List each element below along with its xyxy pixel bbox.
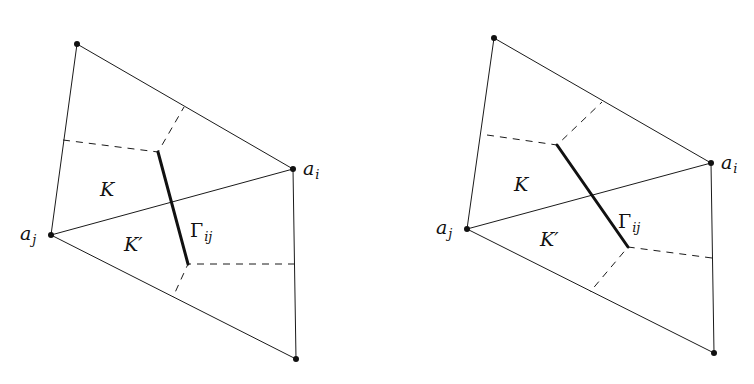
left-diagram: aiajKK′Γij: [20, 41, 320, 362]
label-a-i: ai: [303, 157, 320, 182]
right-diagram: aiajKK′Γij: [436, 35, 738, 356]
edge-top-ai: [494, 38, 711, 163]
vertex-a-j: [48, 232, 54, 238]
label-K: K: [513, 173, 530, 195]
edge-top-aj: [467, 38, 494, 229]
edge-aj-bottom: [467, 229, 714, 353]
label-K-prime: K′: [539, 228, 559, 250]
vertex-top: [491, 35, 497, 41]
label-a-j: aj: [20, 222, 36, 247]
vertex-a-i: [708, 160, 714, 166]
label-a-j: aj: [436, 216, 452, 241]
vertex-a-i: [290, 166, 296, 172]
dual-cell-boundary-upper: [63, 107, 184, 152]
vertex-bottom: [293, 356, 299, 362]
edge-top-aj: [51, 44, 77, 235]
edge-top-ai: [77, 44, 293, 169]
label-K: K: [99, 178, 116, 200]
vertex-top: [74, 41, 80, 47]
gamma-ij-interface: [158, 152, 188, 264]
dual-cell-boundary-lower: [590, 247, 712, 292]
vertex-bottom: [711, 350, 717, 356]
label-a-i: ai: [721, 151, 738, 176]
label-K-prime: K′: [123, 233, 143, 255]
label-gamma-ij: Γij: [190, 219, 212, 244]
vertex-a-j: [464, 226, 470, 232]
label-gamma-ij: Γij: [618, 210, 640, 235]
dual-cell-boundary-upper: [487, 102, 602, 145]
voronoi-dual-diagram: aiajKK′Γij aiajKK′Γij: [0, 0, 754, 384]
edge-aj-ai: [467, 163, 711, 229]
dual-cell-boundary-lower: [173, 264, 295, 297]
